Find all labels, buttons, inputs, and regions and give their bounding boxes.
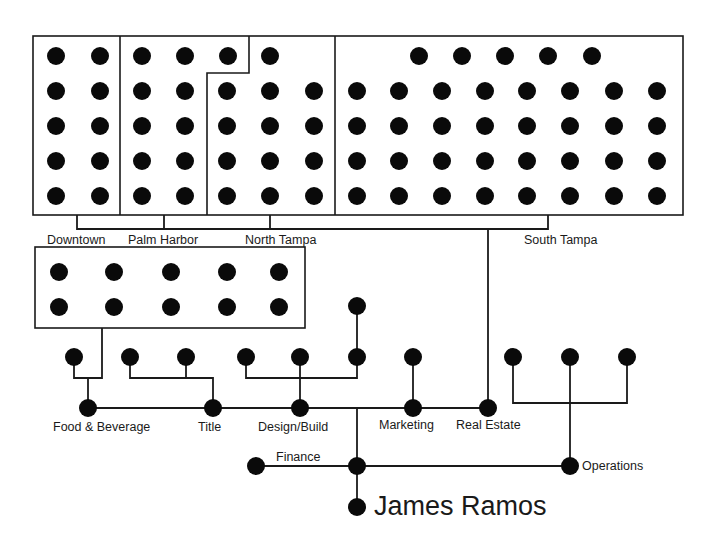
region-label-north-tampa: North Tampa (245, 234, 316, 247)
north-tampa-dots (218, 47, 323, 205)
region-label-palm-harbor: Palm Harbor (128, 234, 198, 247)
department-label-real-estate: Real Estate (456, 419, 521, 432)
downtown-dots (47, 47, 109, 205)
branch-label-operations: Operations (582, 460, 643, 473)
department-dots (65, 297, 636, 516)
department-label-title: Title (198, 421, 221, 434)
region-label-downtown: Downtown (47, 234, 105, 247)
branch-label-finance: Finance (276, 451, 320, 464)
department-label-marketing: Marketing (379, 419, 434, 432)
food-beverage-box (35, 247, 305, 328)
department-connectors (74, 306, 627, 507)
department-label-design-build: Design/Build (258, 421, 328, 434)
department-label-food-beverage: Food & Beverage (53, 421, 150, 434)
region-label-south-tampa: South Tampa (524, 234, 597, 247)
south-tampa-dots (348, 47, 666, 205)
root-name: James Ramos (374, 493, 547, 520)
